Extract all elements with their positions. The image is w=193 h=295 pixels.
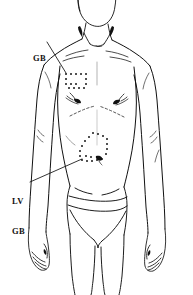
annotation-label-lv-text: LV [12,196,25,206]
left-elbow-hint-b [37,136,43,142]
dot [75,83,77,85]
abdomen-left-flank-crease [66,136,75,145]
nipple-left [74,99,81,104]
dot [75,73,77,75]
dot [79,155,81,157]
dot [79,150,81,152]
abdomen-group [66,110,97,145]
costal-margin-right [99,106,124,117]
anatomical-figure-panel: GB LV GB [0,0,193,295]
right-deltoid-crease [143,73,149,89]
head-chin-group [78,0,116,26]
dot [106,148,108,150]
dot [86,160,88,162]
dot [65,83,67,85]
dot [90,156,92,158]
inguinal-crease-right [102,189,119,195]
brief-leg-left [70,210,94,240]
chin-jaw-outline [78,0,116,26]
dot [106,143,108,145]
left-deltoid-crease [45,72,51,88]
dot [92,132,94,134]
inguinal-crease-left [75,188,92,194]
thighs-group [70,234,124,295]
dot [97,133,99,135]
annotation-label-gb-upper: GB [33,33,46,83]
dot [83,87,85,89]
annotation-label-lv-gb-lower: LV GB [12,176,25,256]
left-thumb-shade [44,249,47,255]
navel-detail [99,161,102,165]
marking-region-lv-gb-lower [79,132,108,162]
dot [105,153,107,155]
right-thumb-shade [148,250,151,256]
dot [80,73,82,75]
nipple-right-tick-a [119,94,124,100]
leader-line-gb-upper [47,42,66,73]
neck-left-scm-line [84,33,90,44]
nipple-group [74,99,120,105]
chest-upper-crease-left [63,56,84,61]
right-forearm-hint [155,150,159,162]
dot [85,83,87,85]
right-hand-group [145,229,166,271]
clavicle-group [63,50,131,62]
torso-line-drawing [0,0,193,295]
right-torso-side [124,67,136,187]
clavicle-right [106,51,128,57]
thigh-right-outer [119,235,124,295]
leader-line-lv-gb-lower [30,159,82,182]
dot [106,138,108,140]
annotation-label-gb-text: GB [12,226,25,236]
trapezius-shade-left [78,26,82,37]
left-finger-1 [32,252,45,262]
brief-leg-right [102,211,126,241]
neck-right-scm-line [104,34,110,44]
dot [101,158,103,160]
clavicle-left [66,50,88,56]
thigh-left-inner [91,246,95,295]
trapezius-shade-right [110,26,114,37]
dot [73,87,75,89]
thigh-right-inner [101,247,105,295]
marking-region-gb-upper [65,73,87,89]
dot [85,155,87,157]
dot [96,159,98,161]
left-hand-shading [44,249,47,255]
dot [88,136,90,138]
dot [78,87,80,89]
dot [91,160,93,162]
waistband-bottom [68,205,127,211]
nipple-left-tick-a [70,93,75,99]
nipple-right [113,100,120,105]
annotation-label-gb-upper-text: GB [33,53,46,63]
dot [85,78,87,80]
dot [81,145,83,147]
dot [102,135,104,137]
right-finger-1 [149,253,162,263]
right-hand-shading [148,250,151,256]
costal-margin-left [70,106,95,116]
navel-crease [99,161,102,165]
right-elbow-hint-a [150,131,156,137]
waistband-top [69,196,127,201]
dot [68,87,70,89]
arms-group [29,65,165,233]
right-elbow-hint-b [151,137,157,143]
left-torso-side [58,66,70,186]
left-arm-outer [29,65,44,228]
thigh-left-outer [70,234,75,295]
chest-upper-crease-right [110,57,131,62]
dot [85,73,87,75]
right-arm-outer [150,66,165,229]
dot [65,78,67,80]
dot [84,140,86,142]
pelvis-group [67,186,127,248]
left-elbow-hint-a [38,130,44,136]
dot [70,73,72,75]
dot [70,83,72,85]
left-hand-group [28,228,49,270]
